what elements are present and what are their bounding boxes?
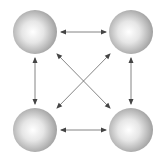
sphere-bottom-right <box>109 108 153 152</box>
sphere-top-right <box>109 10 153 54</box>
sphere-bottom-left <box>13 108 57 152</box>
sphere-top-left <box>13 10 57 54</box>
network-diagram <box>0 0 164 163</box>
